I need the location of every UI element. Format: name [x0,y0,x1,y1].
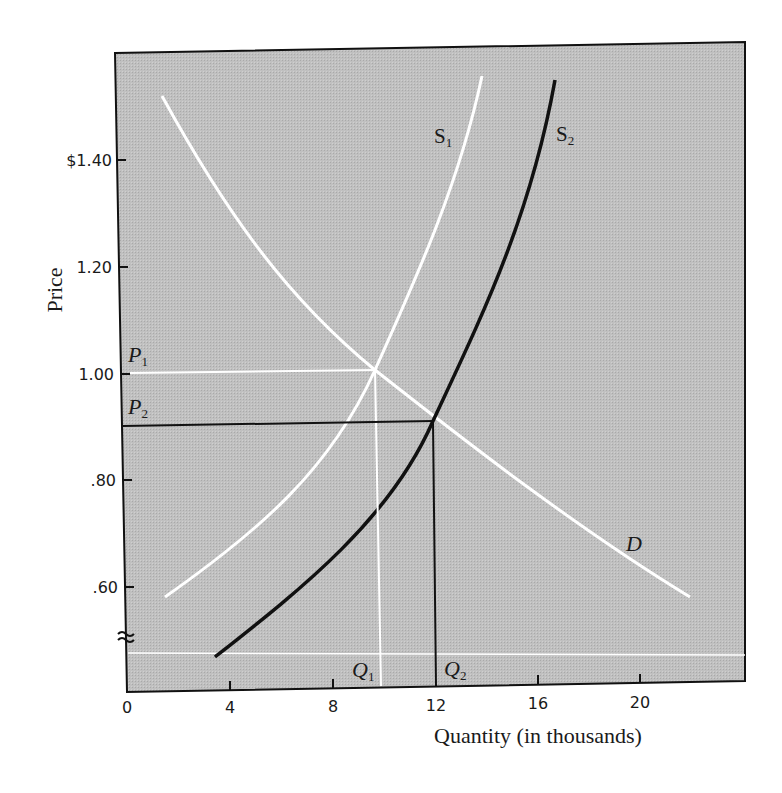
x-tick-label: 16 [528,694,548,713]
x-tick-label: 4 [225,698,235,717]
p1-label-main: P [127,342,141,367]
x-tick-label: 20 [630,693,650,712]
y-tick-label: 1.00 [78,365,114,384]
q2-label-main: Q [444,656,460,681]
y-tick-label: $1.40 [66,151,112,170]
y-axis-title: Price [42,267,67,312]
s2-label-sub: 2 [568,133,575,148]
s1-label-sub: 1 [446,135,453,150]
demand-label: D [625,531,642,556]
x-tick-label: 8 [328,697,338,716]
s2-label-main: S [556,122,568,146]
supply-demand-chart: $1.40 1.20 1.00 .80 .60 0 4 8 12 16 20 P… [0,0,782,793]
y-tick-label: .80 [91,471,116,490]
s1-label-main: S [434,124,446,148]
p2-label-sub: 2 [141,406,148,421]
x-tick-label: 0 [122,698,132,717]
q1-label-sub: 1 [368,669,375,684]
y-tick-label: 1.20 [76,258,112,277]
plot-area [115,42,745,692]
x-axis-title: Quantity (in thousands) [434,723,642,748]
x-tick-label: 12 [426,696,446,715]
q1-label-main: Q [352,657,368,682]
y-tick-label: .60 [93,578,118,597]
q2-label-sub: 2 [460,668,467,683]
p2-label-main: P [127,394,141,419]
p1-label-sub: 1 [141,354,148,369]
